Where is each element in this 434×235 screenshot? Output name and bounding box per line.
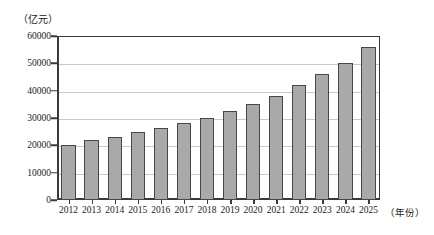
bar — [200, 118, 214, 200]
bar-slot — [200, 36, 214, 200]
bar-slot — [246, 36, 260, 200]
bar-slot — [223, 36, 237, 200]
bar — [108, 137, 122, 200]
x-axis-tick-label: 2022 — [290, 205, 309, 215]
x-axis-tick-label: 2025 — [359, 205, 378, 215]
x-axis-tick-mark — [345, 200, 347, 204]
bar — [84, 140, 98, 200]
bar-slot — [315, 36, 329, 200]
bar — [361, 47, 375, 200]
x-axis-tick-label: 2018 — [197, 205, 216, 215]
x-axis-unit-label: （年份） — [385, 205, 425, 219]
bar-slot — [84, 36, 98, 200]
x-axis-tick-mark — [92, 200, 94, 204]
bar — [338, 63, 352, 200]
y-axis-tick-marks — [0, 36, 60, 200]
bar-slot — [131, 36, 145, 200]
bar — [246, 104, 260, 200]
x-axis-tick-mark — [230, 200, 232, 204]
x-axis-tick-mark — [69, 200, 71, 204]
x-axis-tick-mark — [138, 200, 140, 204]
bar — [177, 123, 191, 200]
bar — [61, 145, 75, 200]
bar-slot — [154, 36, 168, 200]
bar — [269, 96, 283, 200]
bar-slot — [269, 36, 283, 200]
y-axis-unit-label: （亿元） — [18, 11, 58, 26]
x-axis-tick-mark — [253, 200, 255, 204]
x-axis-tick-mark — [322, 200, 324, 204]
bar — [315, 74, 329, 200]
x-axis-tick-mark — [368, 200, 370, 204]
bar — [223, 111, 237, 200]
x-axis-tick-label: 2017 — [174, 205, 193, 215]
x-axis-tick-label: 2013 — [82, 205, 101, 215]
x-axis-tick-mark — [207, 200, 209, 204]
x-axis-tick-label: 2024 — [336, 205, 355, 215]
x-axis-tick-labels: 2012201320142015201620172018201920202021… — [57, 205, 380, 221]
bar-chart: （亿元） 0100002000030000400005000060000 201… — [0, 0, 434, 235]
x-axis-tick-mark — [276, 200, 278, 204]
bar-slot — [338, 36, 352, 200]
bars-layer — [57, 36, 380, 200]
bar — [154, 128, 168, 200]
bar-slot — [177, 36, 191, 200]
x-axis-tick-label: 2016 — [151, 205, 170, 215]
bar-slot — [108, 36, 122, 200]
x-axis-tick-mark — [299, 200, 301, 204]
x-axis-tick-label: 2012 — [59, 205, 78, 215]
x-axis-tick-mark — [184, 200, 186, 204]
bar-slot — [61, 36, 75, 200]
x-axis-tick-mark — [161, 200, 163, 204]
bar — [292, 85, 306, 200]
x-axis-tick-label: 2015 — [128, 205, 147, 215]
x-axis-tick-label: 2021 — [267, 205, 286, 215]
x-axis-tick-label: 2014 — [105, 205, 124, 215]
x-axis-tick-label: 2023 — [313, 205, 332, 215]
bar-slot — [292, 36, 306, 200]
x-axis-tick-label: 2019 — [221, 205, 240, 215]
x-axis-tick-label: 2020 — [244, 205, 263, 215]
bar-slot — [361, 36, 375, 200]
x-axis-tick-mark — [115, 200, 117, 204]
bar — [131, 132, 145, 200]
